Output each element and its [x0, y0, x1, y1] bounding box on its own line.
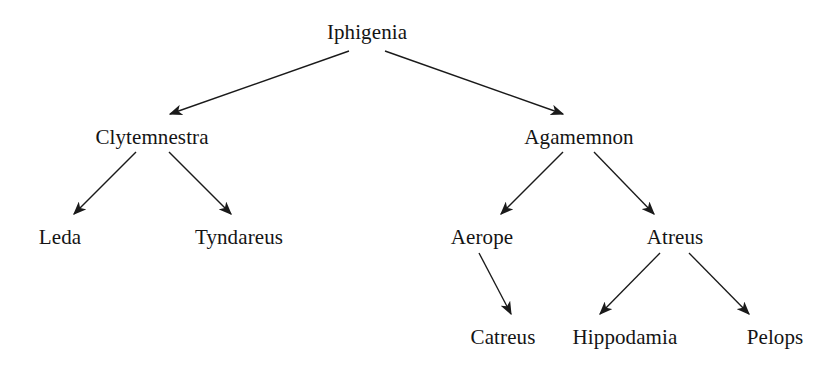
tree-node-agamemnon[interactable]: Agamemnon: [524, 127, 633, 148]
tree-edge-clytemnestra-to-tyndareus: [169, 152, 231, 214]
family-tree-diagram: IphigeniaClytemnestraAgamemnonLedaTyndar…: [0, 0, 836, 371]
tree-node-hippodamia[interactable]: Hippodamia: [573, 327, 678, 348]
tree-edge-iphigenia-to-clytemnestra: [170, 51, 349, 114]
tree-node-tyndareus[interactable]: Tyndareus: [195, 227, 283, 248]
tree-node-catreus[interactable]: Catreus: [471, 327, 536, 348]
tree-node-iphigenia[interactable]: Iphigenia: [327, 22, 407, 43]
tree-edge-iphigenia-to-agamemnon: [385, 51, 563, 114]
tree-edge-agamemnon-to-atreus: [594, 152, 654, 214]
tree-node-pelops[interactable]: Pelops: [747, 327, 804, 348]
edge-layer: [0, 0, 836, 371]
tree-edge-agamemnon-to-aerope: [501, 152, 563, 214]
tree-node-aerope[interactable]: Aerope: [451, 227, 513, 248]
tree-node-leda[interactable]: Leda: [39, 227, 81, 248]
tree-node-atreus[interactable]: Atreus: [647, 227, 704, 248]
tree-node-clytemnestra[interactable]: Clytemnestra: [95, 127, 208, 148]
tree-edge-aerope-to-catreus: [479, 253, 511, 314]
tree-edge-atreus-to-pelops: [689, 253, 749, 314]
tree-edge-clytemnestra-to-leda: [74, 152, 136, 214]
tree-edge-atreus-to-hippodamia: [600, 253, 660, 314]
